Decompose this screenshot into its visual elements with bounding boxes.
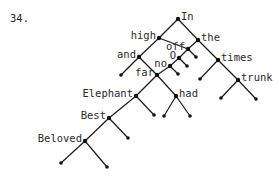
figure-number: 34.	[10, 12, 29, 24]
node-label-best: Best	[81, 109, 106, 121]
tree-node-far	[155, 73, 159, 77]
tree-node-best	[107, 116, 111, 120]
tree-edge-times-leaf_times	[200, 60, 218, 79]
node-label-o: O	[170, 49, 176, 61]
tree-node-leaf-had-l	[162, 114, 166, 118]
node-label-times: times	[221, 51, 253, 63]
tree-edge-the-times	[198, 40, 218, 60]
tree-node-leaf-times	[198, 77, 202, 81]
tree-node-leaf-elephant	[152, 113, 156, 117]
tree-edge-beloved-leaf_beloved_l	[61, 141, 85, 163]
tree-node-in	[176, 17, 180, 21]
node-label-the: the	[201, 31, 220, 43]
tree-edge-far-elephant	[136, 75, 157, 96]
tree-node-leaf-trunk-r	[254, 97, 258, 101]
node-label-high: high	[131, 29, 156, 41]
tree-node-trunk	[236, 78, 240, 82]
tree-node-leaf-no	[176, 72, 180, 76]
node-label-had: had	[179, 87, 198, 99]
tree-diagram: 34. InhightheoffOnoandfartimestrunkEleph…	[0, 0, 279, 176]
node-label-no: no	[154, 57, 167, 69]
tree-edge-beloved-leaf_beloved_r	[85, 141, 107, 167]
node-label-elephant: Elephant	[82, 87, 133, 99]
tree-node-had	[174, 94, 178, 98]
tree-node-leaf-had-r	[188, 114, 192, 118]
tree-edge-had-leaf_had_l	[164, 96, 176, 116]
tree-node-beloved	[83, 139, 87, 143]
tree-edge-best-leaf_best	[109, 118, 128, 138]
tree-node-the	[196, 38, 200, 42]
node-label-beloved: Beloved	[38, 132, 82, 144]
tree-node-leaf-beloved-l	[59, 161, 63, 165]
tree-node-leaf-best	[126, 136, 130, 140]
tree-edge-in-the	[178, 19, 198, 40]
tree-node-leaf-off	[194, 55, 198, 59]
node-label-trunk: trunk	[241, 71, 273, 83]
tree-node-elephant	[134, 94, 138, 98]
tree-node-leaf-and	[119, 73, 123, 77]
tree-node-o	[177, 56, 181, 60]
tree-node-no	[168, 64, 172, 68]
tree-node-times	[216, 58, 220, 62]
tree-edge-best-beloved	[85, 118, 109, 141]
tree-node-and	[137, 55, 141, 59]
node-label-far: far	[135, 66, 154, 78]
tree-node-leaf-trunk-l	[219, 96, 223, 100]
tree-edge-elephant-leaf_elephant	[136, 96, 154, 115]
node-label-and: and	[117, 48, 136, 60]
tree-edge-times-trunk	[218, 60, 238, 80]
tree-edge-had-leaf_had_r	[176, 96, 190, 116]
tree-node-high	[157, 36, 161, 40]
tree-node-off	[186, 47, 190, 51]
tree-node-leaf-o	[185, 64, 189, 68]
tree-edge-trunk-leaf_trunk_l	[221, 80, 238, 98]
node-label-in: In	[181, 10, 194, 22]
tree-edge-elephant-best	[109, 96, 136, 118]
tree-edge-in-high	[159, 19, 178, 38]
tree-node-leaf-beloved-r	[105, 165, 109, 169]
tree-edge-far-had	[157, 75, 176, 96]
